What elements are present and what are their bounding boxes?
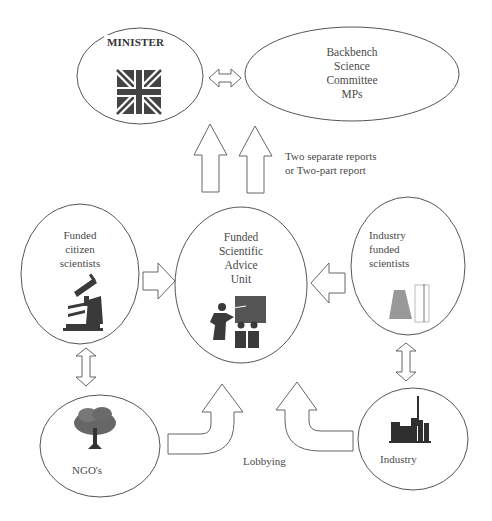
curved-arrow-ngos-icon (168, 384, 243, 454)
minister-label: MINISTER (104, 35, 167, 49)
left-arrow-icon (311, 263, 345, 303)
reports-annotation: Two separate reports or Two-part report (285, 149, 376, 177)
tree-icon (74, 407, 116, 449)
double-arrow-vertical-right-icon (396, 343, 416, 381)
curved-arrow-industry-icon (276, 382, 353, 451)
backbench-label: Backbench Science Committee MPs (312, 45, 392, 101)
industry-scientists-label: Industry funded scientists (369, 228, 409, 270)
ngos-label: NGO's (72, 463, 102, 477)
up-arrow-icon-2 (239, 126, 272, 193)
citizen-scientists-node (21, 204, 139, 344)
lab-flask-icon (389, 284, 429, 322)
factory-icon (389, 396, 431, 443)
citizen-scientists-label: Funded citizen scientists (50, 228, 110, 270)
industry-label: Industry (380, 452, 417, 466)
right-arrow-icon (143, 263, 175, 299)
lobbying-label: Lobbying (243, 454, 286, 468)
double-arrow-vertical-left-icon (76, 348, 96, 386)
double-arrow-horizontal-icon (209, 69, 241, 87)
microscope-icon (63, 274, 103, 331)
advice-unit-label: Funded Scientific Advice Unit (206, 230, 276, 286)
union-jack-flag-icon (117, 70, 161, 114)
up-arrow-icon-1 (194, 124, 227, 192)
presenter-audience-icon (210, 296, 266, 348)
